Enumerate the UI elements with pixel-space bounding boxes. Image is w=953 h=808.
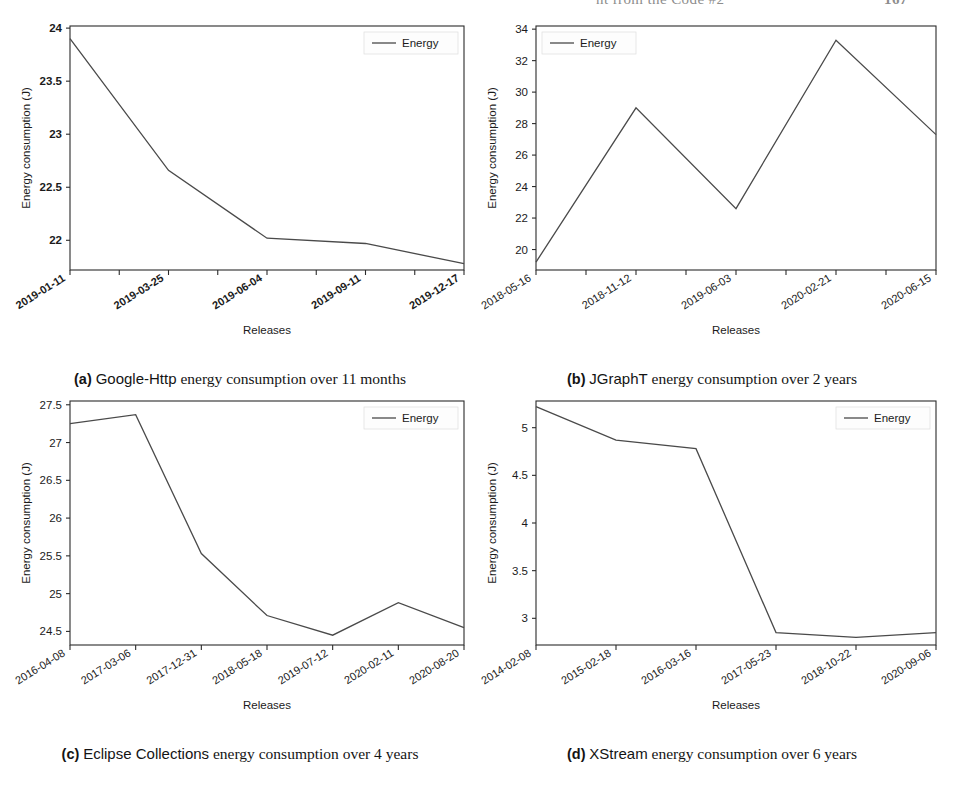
x-tick-label-group: 2017-03-06 [79,647,133,687]
x-tick-label-group: 2018-05-18 [210,647,264,687]
plot-frame [536,26,936,270]
data-series-energy [536,407,936,638]
y-tick-label: 24.5 [40,625,62,637]
x-tick-label-group: 2016-03-16 [639,647,693,687]
x-tick-label-group: 2020-08-20 [407,647,461,687]
page-running-header: nt from the Code #2 167 [0,0,953,11]
caption-b-rest: energy consumption over 2 years [652,370,857,387]
legend: Energy [364,407,458,429]
data-series-energy [536,40,936,262]
y-tick-label: 22.5 [40,181,63,193]
y-axis-title-group: Energy consumption (J) [20,462,32,584]
caption-d-rest: energy consumption over 6 years [652,745,857,762]
page-number: 167 [884,0,908,8]
x-tick-label-group: 2020-02-21 [779,272,833,312]
caption-d-subject: XStream [589,745,647,762]
x-tick-label: 2017-03-06 [79,647,133,687]
caption-a-key: (a) [74,371,92,387]
caption-a-rest: energy consumption over 11 months [180,370,406,387]
x-tick-label-group: 2020-06-15 [879,272,933,312]
legend-label-energy: Energy [580,37,617,49]
y-axis-title-group: Energy consumption (J) [486,87,498,209]
caption-a-subject: Google-Http [96,370,177,387]
subfigure-d: 33.544.552014-02-082015-02-182016-03-162… [478,393,946,778]
legend-label-energy: Energy [402,412,439,424]
x-tick-label: 2020-06-15 [879,272,933,312]
x-tick-label: 2016-04-08 [13,647,67,687]
plot-frame [70,26,464,270]
chart-b: 20222426283032342018-05-162018-11-122019… [478,18,946,370]
caption-d: (d) XStream energy consumption over 6 ye… [478,745,946,763]
x-tick-label: 2017-12-31 [144,647,198,687]
x-axis-title: Releases [243,699,291,711]
x-tick-label-group: 2018-10-22 [799,647,853,687]
x-tick-label: 2018-05-16 [479,272,533,312]
x-tick-label-group: 2019-06-03 [679,272,733,312]
y-tick-label: 25 [49,588,62,600]
x-tick-label: 2018-05-18 [210,647,264,687]
x-tick-label-group: 2019-03-25 [111,272,165,312]
caption-b-subject: JGraphT [589,370,647,387]
x-tick-label: 2020-09-06 [879,647,933,687]
y-axis-title-group: Energy consumption (J) [486,462,498,584]
x-tick-label-group: 2016-04-08 [13,647,67,687]
chart-d: 33.544.552014-02-082015-02-182016-03-162… [478,393,946,745]
header-title: nt from the Code #2 [596,0,724,8]
x-tick-label-group: 2019-09-11 [309,272,363,312]
x-tick-label-group: 2018-11-12 [580,272,633,312]
caption-c-rest: energy consumption over 4 years [213,745,418,762]
y-tick-label: 24 [515,181,528,193]
caption-a: (a) Google-Http energy consumption over … [6,370,474,388]
x-tick-label: 2019-01-11 [13,272,67,312]
x-tick-label: 2019-06-03 [679,272,733,312]
x-tick-label-group: 2015-02-18 [559,647,613,687]
y-tick-label: 5 [522,422,528,434]
chart-a-canvas: 2222.52323.5242019-01-112019-03-252019-0… [6,18,474,370]
subfigure-c: 24.52525.52626.52727.52016-04-082017-03-… [6,393,474,778]
x-tick-label-group: 2019-01-11 [13,272,67,312]
legend: Energy [364,32,458,54]
subfigure-a: 2222.52323.5242019-01-112019-03-252019-0… [6,18,474,403]
x-tick-label-group: 2020-02-11 [342,647,395,687]
y-tick-label: 3.5 [512,565,528,577]
x-tick-label: 2018-11-12 [580,272,633,312]
data-series-energy [70,415,464,636]
figure-grid: 2222.52323.5242019-01-112019-03-252019-0… [0,18,953,808]
subfigure-b: 20222426283032342018-05-162018-11-122019… [478,18,946,403]
y-tick-label: 32 [515,55,528,67]
data-series-energy [70,39,464,264]
y-axis-title: Energy consumption (J) [486,87,498,209]
caption-c-key: (c) [62,746,80,762]
y-axis-title: Energy consumption (J) [20,462,32,584]
x-tick-label-group: 2014-02-08 [479,647,533,687]
y-tick-label: 26 [515,149,528,161]
legend-label-energy: Energy [402,37,439,49]
legend-label-energy: Energy [874,412,911,424]
y-axis-title-group: Energy consumption (J) [20,87,32,209]
y-tick-label: 4.5 [512,469,528,481]
chart-c: 24.52525.52626.52727.52016-04-082017-03-… [6,393,474,745]
y-tick-label: 27 [49,437,62,449]
x-tick-label: 2017-05-23 [719,647,773,687]
chart-b-canvas: 20222426283032342018-05-162018-11-122019… [478,18,946,370]
y-tick-label: 25.5 [40,550,62,562]
y-tick-label: 26 [49,512,62,524]
y-tick-label: 22 [515,212,528,224]
y-axis-title: Energy consumption (J) [486,462,498,584]
y-axis-title: Energy consumption (J) [20,87,32,209]
plot-frame [70,401,464,645]
x-axis-title: Releases [712,699,760,711]
y-tick-label: 27.5 [40,399,62,411]
x-tick-label: 2015-02-18 [559,647,613,687]
y-tick-label: 4 [522,517,529,529]
legend: Energy [542,32,636,54]
x-tick-label-group: 2017-12-31 [144,647,198,687]
y-tick-label: 23.5 [40,75,63,87]
x-tick-label: 2016-03-16 [639,647,693,687]
x-tick-label-group: 2020-09-06 [879,647,933,687]
caption-b: (b) JGraphT energy consumption over 2 ye… [478,370,946,388]
y-tick-label: 30 [515,86,528,98]
y-tick-label: 24 [49,22,62,34]
y-tick-label: 34 [515,23,528,35]
y-tick-label: 26.5 [40,474,62,486]
